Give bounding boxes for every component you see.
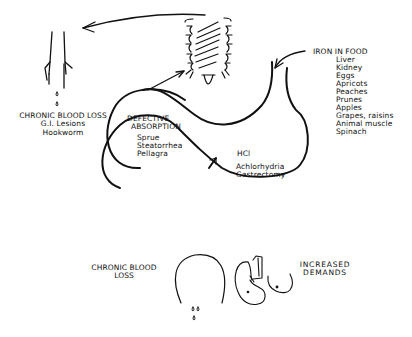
food-arrow-icon — [275, 51, 305, 68]
pellagra-item: Pellagra — [137, 150, 182, 158]
iron-deficiency-diagram: CHRONIC BLOOD LOSS G.I. Lesions Hookworm… — [0, 0, 412, 337]
iron-in-food-label: IRON IN FOOD Liver Kidney Eggs Apricots … — [313, 48, 393, 136]
breast-icon — [268, 274, 293, 293]
fetus-icon — [235, 256, 265, 305]
iron-food-list: Liver Kidney Eggs Apricots Peaches Prune… — [313, 56, 393, 136]
blood-drop-icon — [56, 92, 58, 106]
demands-line: DEMANDS — [295, 269, 355, 277]
chronic-blood-loss-label: CHRONIC BLOOD LOSS G.I. Lesions Hookworm — [15, 112, 111, 137]
defective-absorption-label: DEFECTIVE ABSORPTION Sprue Steatorrhea P… — [127, 115, 182, 158]
intestine-segment-icon — [45, 32, 72, 88]
arrow-to-intestine-icon — [83, 14, 205, 32]
blood-drop-icon — [192, 307, 199, 320]
defective-absorption-heading-2: ABSORPTION — [127, 123, 182, 131]
villi-icon — [185, 18, 232, 84]
defective-absorption-list: Sprue Steatorrhea Pellagra — [127, 134, 182, 158]
hookworm-label: Hookworm — [15, 129, 111, 137]
food-item: Spinach — [336, 128, 393, 136]
increased-demands-label: INCREASED DEMANDS — [295, 261, 355, 278]
stomach-causes-label: Achlorhydria Gastrectomy — [236, 163, 285, 180]
uterus-icon — [175, 255, 224, 303]
chronic-blood-loss-bottom-label: CHRONIC BLOOD LOSS — [88, 264, 160, 281]
gastrectomy-item: Gastrectomy — [236, 171, 285, 179]
hcl-label: HCl — [237, 150, 250, 158]
chronic-blood-line2: LOSS — [88, 272, 160, 280]
absorption-arrow-icon — [148, 71, 184, 90]
